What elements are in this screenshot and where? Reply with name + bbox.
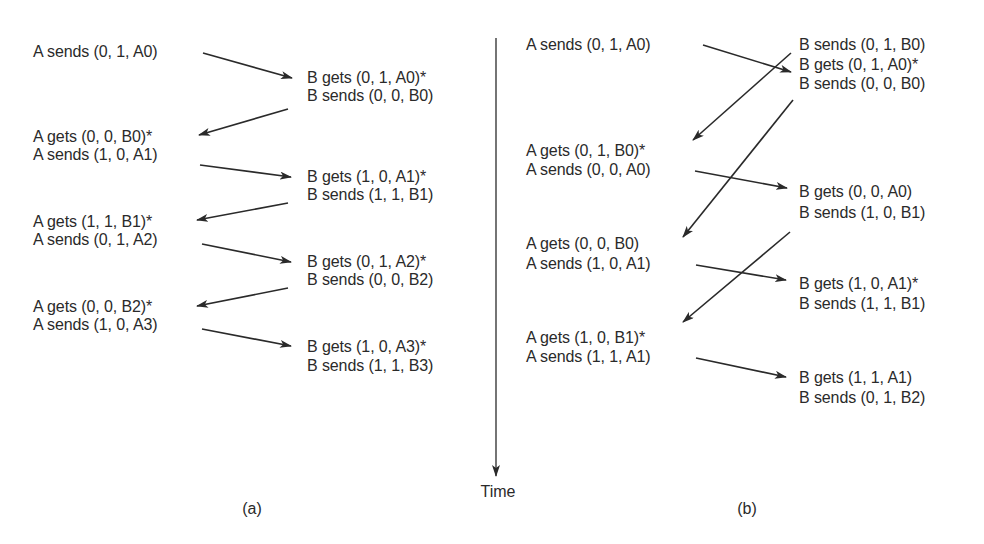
message-arrow bbox=[703, 45, 791, 72]
event-label: B sends (1, 1, B1) bbox=[307, 186, 433, 204]
event-label: B gets (0, 0, A0) bbox=[799, 183, 912, 201]
event-label: A sends (0, 0, A0) bbox=[526, 161, 651, 179]
event-label: B sends (0, 1, B0) bbox=[799, 36, 925, 54]
message-arrow bbox=[202, 329, 291, 346]
message-arrow bbox=[696, 358, 786, 377]
message-arrow bbox=[203, 53, 292, 78]
event-label: A sends (0, 1, A0) bbox=[33, 43, 158, 61]
event-label: A sends (0, 1, A0) bbox=[526, 36, 651, 54]
event-label: A gets (0, 0, B0) bbox=[526, 235, 639, 253]
event-label: B gets (0, 1, A0)* bbox=[799, 56, 918, 74]
message-arrow bbox=[197, 288, 288, 306]
message-arrow bbox=[200, 165, 291, 177]
message-arrow bbox=[695, 171, 787, 188]
event-label: A sends (0, 1, A2) bbox=[33, 231, 158, 249]
event-label: B sends (1, 1, B1) bbox=[799, 295, 925, 313]
time-axis-label: Time bbox=[481, 483, 516, 501]
panel-a-caption: (a) bbox=[242, 500, 262, 518]
message-arrows bbox=[197, 45, 793, 377]
message-arrow bbox=[693, 53, 791, 140]
event-label: B sends (0, 0, B0) bbox=[307, 87, 433, 105]
event-label: B gets (1, 1, A1) bbox=[799, 369, 912, 387]
event-label: B sends (0, 0, B0) bbox=[799, 75, 925, 93]
event-label: B gets (0, 1, A0)* bbox=[307, 69, 426, 87]
event-label: A sends (1, 0, A1) bbox=[33, 146, 158, 164]
event-label: A gets (0, 0, B2)* bbox=[33, 298, 152, 316]
event-label: B sends (1, 1, B3) bbox=[307, 357, 433, 375]
event-label: A sends (1, 0, A3) bbox=[33, 316, 158, 334]
event-label: B gets (1, 0, A3)* bbox=[307, 338, 426, 356]
event-label: B gets (1, 0, A1)* bbox=[799, 275, 918, 293]
event-label: A gets (1, 1, B1)* bbox=[33, 213, 152, 231]
event-label: B sends (0, 1, B2) bbox=[799, 389, 925, 407]
event-label: B sends (1, 0, B1) bbox=[799, 204, 925, 222]
message-arrow bbox=[683, 232, 790, 322]
message-arrow bbox=[202, 244, 291, 262]
event-label: B gets (0, 1, A2)* bbox=[307, 253, 426, 271]
event-label: A sends (1, 0, A1) bbox=[526, 255, 651, 273]
event-label: A sends (1, 1, A1) bbox=[526, 348, 651, 366]
event-label: A gets (0, 0, B0)* bbox=[33, 128, 152, 146]
event-label: A gets (1, 0, B1)* bbox=[526, 329, 645, 347]
panel-b-caption: (b) bbox=[737, 500, 757, 518]
message-arrow bbox=[197, 203, 288, 220]
message-arrow bbox=[199, 109, 288, 135]
message-arrow bbox=[696, 265, 786, 280]
protocol-timing-diagram: A sends (0, 1, A0)B gets (0, 1, A0)*B se… bbox=[0, 0, 984, 544]
event-label: A gets (0, 1, B0)* bbox=[526, 142, 645, 160]
event-label: B sends (0, 0, B2) bbox=[307, 271, 433, 289]
message-arrow bbox=[683, 100, 793, 237]
event-label: B gets (1, 0, A1)* bbox=[307, 168, 426, 186]
